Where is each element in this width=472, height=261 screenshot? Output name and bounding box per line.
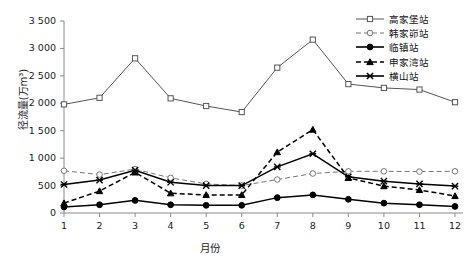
legend-item[interactable]: 申家湾站 (355, 55, 469, 69)
data-point-cross-x (452, 183, 459, 189)
legend-label: 高家堡站 (389, 12, 429, 26)
series-line (61, 192, 458, 210)
data-point-open-square (310, 37, 315, 42)
data-point-open-square (239, 109, 244, 114)
x-tick-label: 1 (56, 220, 72, 231)
data-point-filled-circle (381, 200, 387, 206)
legend-marker-icon (355, 13, 385, 25)
data-point-open-circle (310, 171, 316, 177)
data-point-filled-triangle (96, 188, 102, 194)
x-tick-label: 7 (269, 220, 285, 231)
data-point-open-circle (61, 168, 67, 174)
data-point-filled-circle (310, 192, 316, 198)
data-point-cross-x (274, 164, 281, 170)
data-point-filled-triangle (452, 193, 458, 199)
data-point-open-square (275, 65, 280, 70)
data-point-filled-circle (452, 204, 458, 210)
data-point-open-circle (417, 169, 423, 175)
data-point-open-circle (367, 30, 373, 36)
data-point-open-square (61, 102, 66, 107)
y-tick-label: 500 (4, 180, 56, 191)
y-tick-label: 1 500 (4, 125, 56, 136)
legend-marker-icon (355, 41, 385, 53)
data-point-open-square (168, 96, 173, 101)
data-point-open-square (417, 87, 422, 92)
data-point-open-circle (97, 172, 103, 178)
legend-label: 申家湾站 (389, 55, 429, 69)
x-axis-title: 月份 (200, 240, 220, 255)
data-point-filled-triangle (274, 149, 280, 155)
y-tick-label: 2 500 (4, 70, 56, 81)
data-point-open-circle (346, 169, 352, 175)
data-point-filled-triangle (310, 126, 316, 132)
data-point-open-circle (274, 177, 280, 183)
x-tick-label: 11 (411, 220, 427, 231)
legend-label: 韩家峁站 (389, 26, 429, 40)
data-point-open-square (367, 16, 372, 21)
x-tick-label: 2 (92, 220, 108, 231)
y-tick-label: 2 000 (4, 97, 56, 108)
legend-item[interactable]: 临镇站 (355, 40, 469, 54)
data-point-filled-circle (417, 202, 423, 208)
data-point-filled-circle (345, 196, 351, 202)
series-line (61, 166, 458, 188)
x-tick-label: 12 (447, 220, 463, 231)
data-point-open-square (381, 85, 386, 90)
data-point-filled-circle (239, 202, 245, 208)
y-tick-label: 1 000 (4, 152, 56, 163)
data-point-cross-x (367, 73, 374, 79)
series-line (61, 126, 458, 205)
data-point-filled-circle (97, 202, 103, 208)
y-tick-label: 3 000 (4, 42, 56, 53)
legend-marker-icon (355, 70, 385, 82)
data-point-open-square (346, 81, 351, 86)
data-point-open-square (97, 95, 102, 100)
x-tick-label: 8 (305, 220, 321, 231)
data-point-filled-circle (203, 202, 209, 208)
data-point-filled-circle (367, 45, 373, 51)
x-tick-label: 4 (163, 220, 179, 231)
x-tick-label: 6 (234, 220, 250, 231)
legend-item[interactable]: 高家堡站 (355, 12, 469, 26)
legend-marker-icon (355, 27, 385, 39)
legend-label: 横山站 (389, 69, 419, 83)
data-point-open-square (452, 100, 457, 105)
chart-root: 径流量(万m³) 月份 05001 0001 5002 0002 5003 00… (0, 0, 472, 261)
data-point-open-square (132, 56, 137, 61)
legend-label: 临镇站 (389, 40, 419, 54)
data-point-filled-circle (132, 197, 138, 203)
y-tick-label: 0 (4, 207, 56, 218)
x-tick-label: 10 (376, 220, 392, 231)
data-point-cross-x (309, 151, 316, 157)
data-point-cross-x (96, 177, 103, 183)
data-point-open-square (204, 103, 209, 108)
legend-item[interactable]: 横山站 (355, 69, 469, 83)
data-point-filled-circle (168, 202, 174, 208)
x-tick-label: 5 (198, 220, 214, 231)
y-tick-label: 3 500 (4, 15, 56, 26)
data-point-open-circle (452, 169, 458, 175)
data-point-filled-circle (274, 195, 280, 201)
chart-legend: 高家堡站韩家峁站临镇站申家湾站横山站 (355, 12, 469, 83)
data-point-open-circle (381, 169, 387, 175)
x-tick-label: 9 (340, 220, 356, 231)
legend-item[interactable]: 韩家峁站 (355, 26, 469, 40)
x-tick-label: 3 (127, 220, 143, 231)
legend-marker-icon (355, 56, 385, 68)
series-line (61, 151, 459, 190)
